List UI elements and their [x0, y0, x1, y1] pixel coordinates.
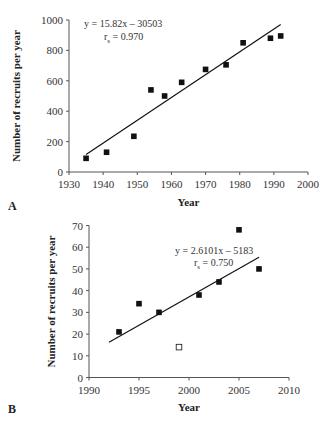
y-tick-label: 30 [72, 306, 84, 318]
y-tick-label: 40 [72, 285, 84, 297]
data-point [116, 329, 122, 335]
y-tick-label: 400 [47, 105, 64, 117]
y-tick-label: 0 [58, 166, 64, 178]
data-point [216, 279, 222, 285]
x-tick-label: 1980 [229, 178, 252, 190]
data-point [131, 133, 137, 139]
y-axis-title: Number of recruits per year [10, 30, 22, 162]
y-tick-label: 60 [72, 241, 84, 253]
x-tick-label: 2010 [278, 384, 301, 396]
x-tick-label: 1940 [92, 178, 115, 190]
panel-label-b: B [8, 402, 16, 416]
correlation-coefficient: rs = 0.970 [104, 31, 143, 45]
x-axis-title: Year [178, 401, 200, 413]
panel-label-a: A [8, 199, 17, 213]
y-tick-label: 800 [47, 44, 64, 56]
x-axis-title: Year [178, 196, 200, 208]
correlation-coefficient: rs = 0.750 [194, 257, 233, 271]
y-tick-label: 10 [72, 350, 84, 362]
y-tick-label: 50 [72, 263, 84, 275]
data-point [83, 156, 89, 162]
data-point [256, 266, 262, 272]
x-tick-label: 1950 [126, 178, 149, 190]
panel-a-chart: 1930194019501960197019801990200002004006… [10, 14, 320, 208]
trend-line [86, 25, 281, 155]
data-point [203, 67, 209, 73]
x-tick-label: 1990 [263, 178, 286, 190]
data-point [268, 35, 274, 41]
regression-equation: y = 15.82x – 30503 [84, 18, 162, 29]
x-tick-label: 1990 [78, 384, 101, 396]
y-axis-title: Number of recruits per year [45, 235, 57, 367]
panel-b-chart: 19901995200020052010010203040506070YearN… [45, 220, 301, 414]
figure: 1930194019501960197019801990200002004006… [0, 0, 330, 425]
data-point [136, 301, 142, 307]
trend-line [109, 257, 259, 342]
x-tick-label: 2000 [178, 384, 201, 396]
regression-equation: y = 2.6101x – 5183 [175, 245, 253, 256]
x-tick-label: 1960 [160, 178, 183, 190]
x-tick-label: 1930 [58, 178, 81, 190]
x-tick-label: 1995 [128, 384, 151, 396]
x-tick-label: 2000 [297, 178, 320, 190]
data-point [148, 87, 154, 93]
y-tick-label: 0 [78, 372, 84, 384]
data-point [240, 40, 246, 46]
x-tick-label: 2005 [228, 384, 251, 396]
x-tick-label: 1970 [195, 178, 218, 190]
data-point [104, 149, 110, 155]
data-point [162, 93, 168, 99]
data-point-open [176, 344, 182, 350]
data-point [196, 292, 202, 298]
data-point [236, 227, 242, 233]
data-point [223, 62, 229, 68]
data-point [179, 80, 185, 86]
data-point [278, 33, 284, 39]
y-tick-label: 20 [72, 328, 84, 340]
chart-canvas: 1930194019501960197019801990200002004006… [0, 0, 330, 425]
y-tick-label: 1000 [41, 14, 64, 26]
y-tick-label: 200 [47, 136, 64, 148]
y-tick-label: 70 [72, 220, 84, 232]
y-tick-label: 600 [47, 75, 64, 87]
data-point [156, 310, 162, 316]
